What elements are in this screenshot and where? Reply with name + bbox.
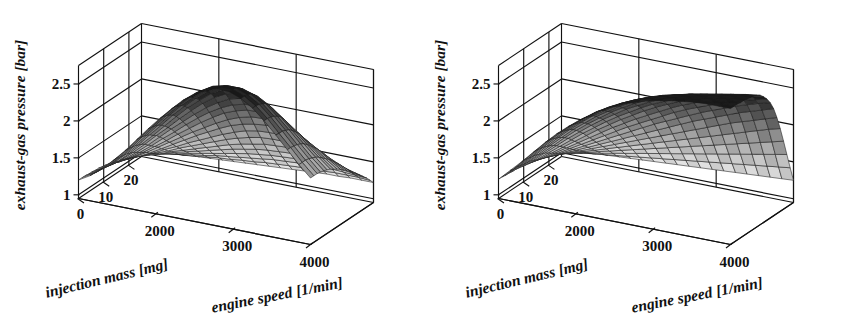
ytick-10: 10 (518, 189, 533, 205)
ytick-0: 0 (77, 206, 85, 222)
ztick-1.5: 1.5 (52, 150, 71, 166)
x-axis-label: engine speed [1/min] (630, 274, 764, 316)
left-plot-panel: 11.522.520100200030004000exhaust-gas pre… (0, 0, 420, 330)
xtick-4000: 4000 (300, 254, 330, 270)
surface-mesh (79, 86, 374, 183)
xtick-2000: 2000 (145, 223, 175, 239)
ztick-2: 2 (63, 113, 71, 129)
ztick-2.5: 2.5 (52, 76, 71, 92)
xtick-2000: 2000 (565, 223, 595, 239)
ytick-0: 0 (497, 206, 505, 222)
ztick-2.5: 2.5 (472, 76, 491, 92)
ztick-1: 1 (63, 187, 71, 203)
ztick-1: 1 (483, 187, 491, 203)
z-axis-label: exhaust-gas pressure [bar] (431, 40, 448, 211)
ztick-1.5: 1.5 (472, 150, 491, 166)
xtick-4000: 4000 (720, 254, 750, 270)
ztick-2: 2 (483, 113, 491, 129)
ytick-10: 10 (98, 189, 113, 205)
modelled-map-svg: 11.522.520100200030004000exhaust-gas pre… (420, 0, 840, 330)
y-axis-label: injection mass [mg] (464, 255, 590, 301)
z-axis-label: exhaust-gas pressure [bar] (11, 40, 28, 211)
y-axis-label: injection mass [mg] (44, 255, 170, 301)
measured-map-svg: 11.522.520100200030004000exhaust-gas pre… (0, 0, 420, 330)
figure-root: 11.522.520100200030004000exhaust-gas pre… (0, 0, 841, 330)
xtick-3000: 3000 (222, 238, 252, 254)
xtick-3000: 3000 (642, 238, 672, 254)
x-axis-label: engine speed [1/min] (210, 274, 344, 316)
ytick-20: 20 (123, 172, 138, 188)
surface-mesh (499, 94, 794, 180)
ytick-20: 20 (543, 172, 558, 188)
right-plot-panel: 11.522.520100200030004000exhaust-gas pre… (420, 0, 840, 330)
